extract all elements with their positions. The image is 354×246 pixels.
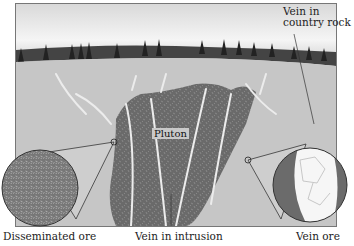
- label-line-2: country rock: [283, 17, 351, 28]
- vein-country-rock-label: Vein in country rock: [283, 6, 351, 28]
- disseminated-ore-label: Disseminated ore: [3, 231, 96, 242]
- vein-ore-label: Vein ore: [296, 231, 340, 242]
- disseminated-ore-inset: [2, 150, 78, 226]
- vein-in-intrusion-label: Vein in intrusion: [135, 231, 223, 242]
- inset-magnifiers: [0, 0, 354, 246]
- vein-ore-inset: [270, 140, 350, 230]
